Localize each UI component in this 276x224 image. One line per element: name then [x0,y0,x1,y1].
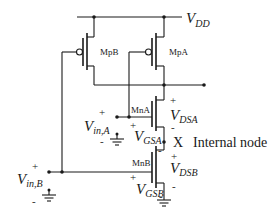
transistor-mpb [62,17,94,85]
vdsa-minus: - [171,121,175,133]
internal-node-label: Internal node [193,135,267,150]
vdsa-plus: + [170,94,176,106]
gate-bubble-icon [146,49,152,55]
transistor-mpa [129,17,164,100]
internal-node-name: X [173,135,183,150]
nand-gate-schematic: VDD MpB MpA [0,0,276,224]
ground-icon [42,189,56,202]
mnb-label: MnB [132,158,151,168]
svg-text:+: + [32,160,38,172]
input-source-b: + Vin,B - [17,160,56,207]
svg-text:-: - [32,195,36,207]
mpa-label: MpA [169,47,189,57]
vdd-label: VDD [186,10,210,29]
mna-label: MnA [131,105,151,115]
ground-icon [110,133,124,146]
input-source-a: + Vin,A - [84,106,124,147]
vdsb-label: VDSB [170,160,198,178]
mpb-label: MpB [100,47,119,57]
vdsb-minus: - [172,180,176,192]
internal-node-dot [162,140,166,144]
vdd-rail [77,15,182,19]
svg-text:+: + [99,106,105,118]
svg-text:Vin,A: Vin,A [84,118,110,136]
vgsb-minus: - [159,190,163,202]
svg-text:Vin,B: Vin,B [17,171,43,189]
gate-bubble-icon [77,49,83,55]
svg-text:-: - [100,135,104,147]
output-node [94,83,206,87]
